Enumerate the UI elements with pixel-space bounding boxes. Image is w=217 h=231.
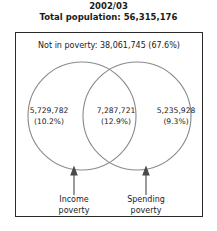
region-spending-only-label: 5,235,928 (9.3%) (150, 106, 202, 127)
region-income-only-value: 5,729,782 (18, 106, 80, 117)
region-income-only-label: 5,729,782 (10.2%) (18, 106, 80, 127)
spending-poverty-label-line2: poverty (113, 206, 179, 217)
income-poverty-label-line2: poverty (44, 206, 104, 217)
region-spending-only-percent: (9.3%) (150, 117, 202, 128)
income-poverty-label-line1: Income (44, 195, 104, 206)
region-income-only-percent: (10.2%) (18, 117, 80, 128)
spending-poverty-label: Spending poverty (113, 195, 179, 216)
chart-population-subtitle: Total population: 56,315,176 (0, 12, 217, 22)
region-both-label: 7,287,721 (12.9%) (86, 106, 146, 127)
income-poverty-label: Income poverty (44, 195, 104, 216)
spending-poverty-label-line1: Spending (113, 195, 179, 206)
not-in-poverty-label: Not in poverty: 38,061,745 (67.6%) (15, 41, 203, 50)
region-both-value: 7,287,721 (86, 106, 146, 117)
region-both-percent: (12.9%) (86, 117, 146, 128)
region-spending-only-value: 5,235,928 (150, 106, 202, 117)
chart-year-title: 2002/03 (0, 1, 217, 11)
